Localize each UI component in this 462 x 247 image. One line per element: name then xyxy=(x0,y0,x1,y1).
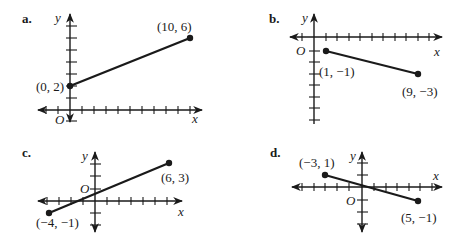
endpoint-dot xyxy=(322,172,328,178)
point-label: (−3, 1) xyxy=(299,155,335,170)
graph-a: a. y x O (0, 2) (10, 6) xyxy=(22,10,202,127)
origin-label: O xyxy=(55,112,65,127)
graph-a-label: a. xyxy=(22,11,32,26)
origin-label: O xyxy=(80,181,90,196)
graph-b: b. y x O (1, −1) (9, −3) xyxy=(269,10,442,124)
origin-label: O xyxy=(296,43,306,58)
y-ticks xyxy=(66,26,77,121)
endpoint-dot xyxy=(166,160,172,166)
graph-d: d. y x O (−3, 1) (5, −1) xyxy=(270,145,442,232)
y-axis-label: y xyxy=(300,10,308,25)
endpoint-dot xyxy=(415,198,421,204)
endpoint-dot xyxy=(187,35,193,41)
x-axis-label: x xyxy=(177,204,184,219)
point-label: (6, 3) xyxy=(161,170,189,185)
point-label: (−4, −1) xyxy=(36,215,79,230)
endpoint-dot xyxy=(323,48,329,54)
y-axis-label: y xyxy=(80,148,88,163)
graph-b-label: b. xyxy=(269,11,279,26)
point-label: (0, 2) xyxy=(36,79,64,94)
origin-label: O xyxy=(346,193,356,208)
y-axis-label: y xyxy=(348,148,356,163)
x-axis-label: x xyxy=(432,168,439,183)
y-axis-label: y xyxy=(53,10,61,25)
point-label: (9, −3) xyxy=(402,84,438,99)
line-segment xyxy=(49,163,169,213)
endpoint-dot xyxy=(67,83,73,89)
graph-d-label: d. xyxy=(270,145,280,160)
graph-c: c. y x O (−4, −1) (6, 3) xyxy=(22,145,189,232)
point-label: (5, −1) xyxy=(401,210,437,225)
x-axis-label: x xyxy=(433,44,440,59)
point-label: (1, −1) xyxy=(319,64,355,79)
line-segment xyxy=(70,38,190,86)
x-axis-label: x xyxy=(191,111,198,126)
point-label: (10, 6) xyxy=(157,19,192,34)
endpoint-dot xyxy=(415,71,421,77)
graphs-figure: a. y x O (0, 2) (10, 6) b. xyxy=(0,0,462,247)
graph-c-label: c. xyxy=(22,145,31,160)
line-segment xyxy=(325,175,418,201)
